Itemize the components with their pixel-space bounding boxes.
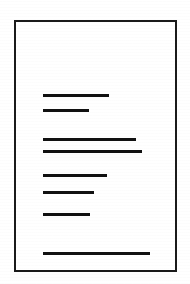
page-sheet-border <box>14 20 177 272</box>
text-line <box>43 213 90 216</box>
text-line <box>43 252 150 255</box>
text-line <box>43 109 89 112</box>
text-line <box>43 174 107 177</box>
text-lines-area <box>16 22 175 270</box>
text-line <box>43 94 109 97</box>
text-line <box>43 150 142 153</box>
text-line <box>43 191 94 194</box>
document-page-thumbnail[interactable] <box>0 0 190 284</box>
text-line <box>43 138 136 141</box>
